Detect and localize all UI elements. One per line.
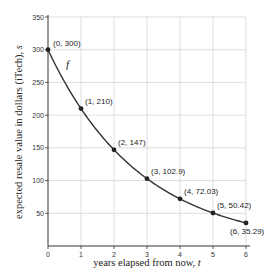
y-tick-label: 100 xyxy=(32,177,44,184)
data-point xyxy=(46,47,51,52)
y-axis-label: expected resale value in dollars (iTech)… xyxy=(13,45,25,219)
y-tick-label: 200 xyxy=(32,112,44,119)
point-label: (0, 300) xyxy=(53,39,81,48)
data-point xyxy=(145,176,150,181)
data-point xyxy=(211,211,216,216)
y-tick-label: 300 xyxy=(32,46,44,53)
data-point xyxy=(79,106,84,111)
point-label: (6, 35.29) xyxy=(230,227,265,236)
y-tick-label: 350 xyxy=(32,14,44,21)
point-label: (5, 50.42) xyxy=(217,201,252,210)
exponential-decay-chart: 0123456 50100150200250300350 (0, 300)(1,… xyxy=(0,0,267,280)
y-axis-ticks: 50100150200250300350 xyxy=(32,14,48,217)
y-tick-label: 250 xyxy=(32,79,44,86)
x-tick-label: 5 xyxy=(211,251,215,258)
point-label: (2, 147) xyxy=(118,138,146,147)
x-tick-label: 6 xyxy=(244,251,248,258)
y-tick-label: 150 xyxy=(32,144,44,151)
y-tick-label: 50 xyxy=(36,210,44,217)
function-label: f xyxy=(66,58,71,70)
point-label: (3, 102.9) xyxy=(151,167,186,176)
data-point xyxy=(244,221,249,226)
x-tick-label: 0 xyxy=(46,251,50,258)
point-label: (1, 210) xyxy=(85,97,113,106)
data-point xyxy=(112,147,117,152)
x-axis-label: years elapsed from now, t xyxy=(93,257,202,268)
data-points: (0, 300)(1, 210)(2, 147)(3, 102.9)(4, 72… xyxy=(46,39,265,236)
grid-lines xyxy=(48,17,246,246)
point-label: (4, 72.03) xyxy=(184,187,219,196)
x-tick-label: 1 xyxy=(79,251,83,258)
data-point xyxy=(178,196,183,201)
